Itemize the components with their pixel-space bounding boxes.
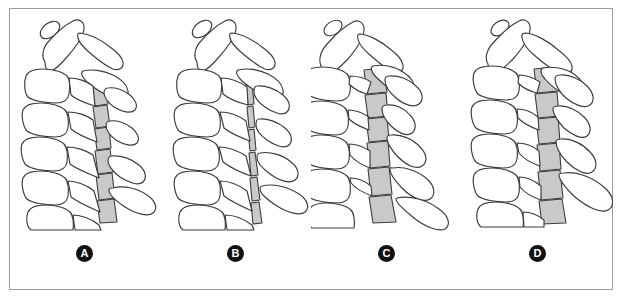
c6-lamina-c: [350, 178, 372, 196]
panel-label-a: A: [9, 240, 160, 266]
c3-spinous-a: [104, 88, 136, 112]
c3-body-d: [473, 66, 519, 100]
panel-label-c: C: [311, 240, 462, 266]
panel-c: C: [311, 8, 462, 290]
panel-b: B: [160, 8, 311, 290]
c4-body-c: [311, 101, 348, 135]
c3-spinous-b: [254, 86, 289, 114]
c4-lamina-c: [348, 110, 369, 130]
c6-body-a: [22, 171, 68, 205]
c5-spinous-a: [108, 156, 145, 184]
c3-body-c: [311, 67, 350, 101]
c6-spinous-b: [260, 185, 308, 214]
c6-lamina-a: [68, 181, 100, 212]
panel-badge-a: A: [76, 245, 93, 262]
c3-body-b: [177, 69, 222, 103]
c6-lamina-b: [220, 181, 252, 211]
panel-label-b: B: [160, 240, 311, 266]
panel-label-d: D: [462, 240, 613, 266]
c1-posterior-b: [230, 33, 276, 70]
panel-badge-c: C: [378, 245, 395, 262]
spine-illustration-d: [462, 8, 613, 232]
panel-badge-d: D: [529, 245, 546, 262]
c5-lamina-a: [67, 147, 99, 178]
c5-body-d: [471, 134, 517, 168]
c7-body-d: [477, 202, 524, 227]
c5-spinous-d: [556, 139, 596, 173]
panel-a: A: [9, 8, 160, 290]
c5-lamina-c: [349, 144, 370, 168]
c3-spinous-d: [555, 75, 593, 107]
c7-lamina-b: [225, 215, 254, 230]
c4-spinous-b: [256, 119, 291, 147]
c6-body-c: [311, 169, 350, 203]
panel-container: A: [9, 8, 613, 290]
c4-lamina-a: [68, 112, 97, 142]
c7-spinous-c: [396, 197, 448, 230]
spine-illustration-b: [160, 8, 311, 232]
c6-lamina-d: [519, 177, 541, 200]
c4-lamina-b: [220, 112, 250, 141]
c7-body-c: [311, 203, 354, 228]
c5-lamina-b: [219, 147, 251, 176]
c7-body-a: [27, 205, 74, 230]
c4-lamina-d: [517, 109, 539, 130]
c5-lamina-d: [517, 143, 540, 166]
c6-spinous-c: [390, 168, 434, 201]
figure-root: A: [0, 0, 622, 299]
spine-illustration-a: [9, 8, 160, 232]
spine-illustration-c: [311, 8, 462, 232]
c5-body-b: [173, 137, 219, 171]
c4-body-a: [22, 103, 68, 137]
c3-spinous-c: [385, 76, 422, 106]
c5-body-a: [21, 137, 67, 171]
c7-body-b: [179, 205, 226, 230]
panel-d: D: [462, 8, 613, 290]
c3-body-a: [25, 69, 70, 103]
c6-spinous-d: [559, 173, 613, 211]
c7-lamina-a: [73, 215, 101, 230]
c6-body-d: [473, 168, 519, 202]
c4-body-d: [471, 100, 517, 134]
c4-body-b: [174, 103, 220, 137]
panel-badge-b: B: [227, 245, 244, 262]
c1-posterior-a: [78, 33, 124, 70]
c5-body-c: [311, 135, 349, 169]
c6-body-b: [174, 171, 220, 205]
c5-spinous-b: [257, 152, 298, 181]
c5-spinous-c: [387, 135, 426, 168]
